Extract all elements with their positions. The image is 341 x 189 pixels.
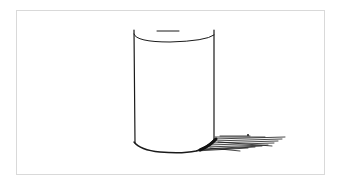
shadow-speck xyxy=(247,134,249,136)
cylinder-top-rim xyxy=(134,34,214,42)
cylinder-left-edge xyxy=(134,30,135,143)
cylinder-sketch xyxy=(0,0,341,189)
